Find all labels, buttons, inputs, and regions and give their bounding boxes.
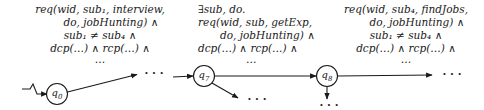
state-q8-label: q8 [319,68,335,86]
ellipsis-q7-branch: · · · [240,93,274,106]
label-line: dcp(…) ∧ rcp(…) ∧ [198,42,318,55]
state-label-index: 8 [328,75,332,83]
initial-arrow [22,84,47,94]
label-line: ∃sub, do. [198,3,318,16]
label-line: … [336,55,476,64]
state-label-index: 0 [58,93,62,101]
state-label-index: 7 [205,75,209,83]
state-q0-label: q0 [49,86,65,104]
label-line: req(wid, sub₄, findJobs, [336,3,476,16]
ellipsis-after-q0: · · · [138,67,170,80]
edge-into-q7 [173,76,193,77]
label-line: … [30,55,170,64]
label-line: … [198,55,318,64]
state-q7-label: q7 [196,68,212,86]
label-line: req(wid, sub₁, interview, [30,3,170,16]
edge-q7-branch [212,83,238,98]
edge-label-q7: ∃sub, do. req(wid, sub, getExp, do, jobH… [198,3,318,64]
edge-label-q0: req(wid, sub₁, interview, do, jobHunting… [30,3,170,64]
edge-label-q8: req(wid, sub₄, findJobs, do, jobHunting)… [336,3,476,64]
label-line: do, jobHunting) ∧ [30,16,170,29]
label-line: sub₁ ≠ sub₄ ∧ [30,29,170,42]
ellipsis-below-q8: · · · [313,99,345,110]
label-line: sub₁ ≠ sub₄ ∧ [336,29,476,42]
ellipsis-after-q8: · · · [436,68,468,81]
label-line: do, jobHunting) ∧ [198,29,318,42]
label-line: do, jobHunting) ∧ [336,16,476,29]
label-line: req(wid, sub, getExp, [198,16,318,29]
edge-q0-out [68,75,138,93]
edge-q8-out [338,75,433,76]
